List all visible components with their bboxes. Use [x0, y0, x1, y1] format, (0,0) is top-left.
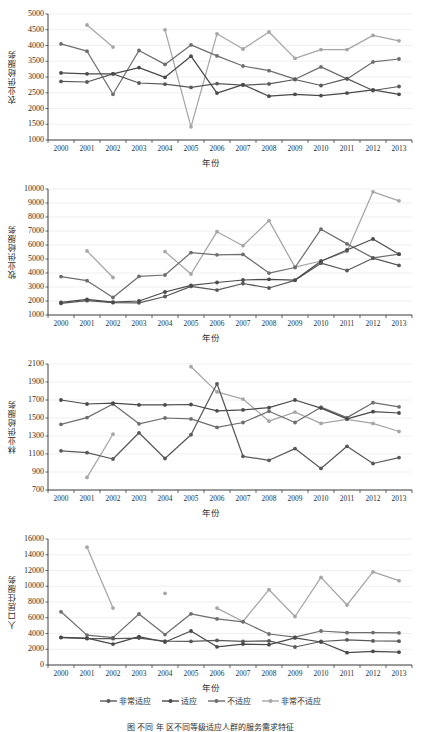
series-line	[59, 401, 401, 430]
x-tick-label: 2001	[80, 320, 95, 327]
x-tick-label: 2000	[54, 495, 69, 502]
x-tick-label: 2001	[80, 145, 95, 152]
x-tick-label: 2013	[392, 320, 407, 327]
x-tick-label: 2005	[184, 320, 199, 327]
x-tick-label: 2006	[210, 320, 225, 327]
x-tick-label: 2013	[392, 670, 407, 677]
x-tick-label: 2011	[340, 495, 355, 502]
figure-caption: 图 不同 年 区不同等级适应人群的服务需求特征	[0, 721, 421, 732]
series-line	[85, 23, 401, 129]
legend-item[interactable]: 不适应	[208, 695, 251, 706]
x-tick-label: 2000	[54, 145, 69, 152]
x-tick-label: 2002	[106, 670, 121, 677]
x-tick-label: 2007	[236, 495, 251, 502]
x-tick-label: 2008	[262, 145, 277, 152]
x-tick-label: 2006	[210, 670, 225, 677]
x-tick-label: 2012	[366, 670, 381, 677]
x-tick-label: 2005	[184, 495, 199, 502]
legend-label: 非常适应	[119, 695, 151, 706]
x-tick-label: 2009	[288, 495, 303, 502]
legend-item[interactable]: 适应	[162, 695, 197, 706]
x-tick-label: 2011	[340, 670, 355, 677]
x-tick-label: 2006	[210, 145, 225, 152]
series-line	[59, 398, 401, 421]
chart-panel-4: 人口居住服务0200040006000800010000120001400016…	[0, 527, 421, 723]
x-tick-label: 2005	[184, 145, 199, 152]
x-tick-label: 2010	[314, 495, 329, 502]
legend-label: 非常不适应	[281, 695, 321, 706]
chart-panel-3: 林业供给服务7009001100130015001700190021002000…	[0, 352, 421, 526]
x-tick-label: 2013	[392, 145, 407, 152]
x-tick-label: 2009	[288, 670, 303, 677]
legend-line-marker-icon	[208, 697, 225, 705]
x-tick-label: 2010	[314, 670, 329, 677]
legend-line-marker-icon	[162, 697, 179, 705]
x-tick-label: 2004	[158, 320, 173, 327]
x-tick-label: 2006	[210, 495, 225, 502]
x-tick-label: 2009	[288, 145, 303, 152]
x-tick-label: 2004	[158, 145, 173, 152]
x-tick-label: 2003	[132, 145, 147, 152]
x-tick-label: 2012	[366, 145, 381, 152]
x-axis-label: 年份	[0, 506, 421, 518]
x-tick-label: 2013	[392, 495, 407, 502]
x-tick-label: 2008	[262, 670, 277, 677]
x-tick-label: 2011	[340, 145, 355, 152]
legend-item[interactable]: 非常不适应	[262, 695, 321, 706]
x-tick-label: 2002	[106, 495, 121, 502]
x-tick-label: 2003	[132, 495, 147, 502]
x-tick-label: 2003	[132, 670, 147, 677]
x-tick-label: 2008	[262, 320, 277, 327]
x-tick-label: 2004	[158, 670, 173, 677]
x-tick-label: 2004	[158, 495, 173, 502]
chart-panel-2: 牧业供给服务1000200030004000500060007000800090…	[0, 177, 421, 351]
x-tick-label: 2012	[366, 320, 381, 327]
x-tick-label: 2003	[132, 320, 147, 327]
x-tick-label: 2012	[366, 495, 381, 502]
legend-item[interactable]: 非常适应	[100, 695, 151, 706]
series-line	[59, 42, 401, 96]
series-line	[59, 237, 401, 304]
legend-label: 适应	[181, 695, 197, 706]
x-tick-label: 2000	[54, 320, 69, 327]
x-tick-label: 2010	[314, 145, 329, 152]
x-tick-label: 2002	[106, 145, 121, 152]
chart-panel-1: 农业供给服务1000150020002500300035004000450050…	[0, 2, 421, 176]
x-tick-label: 2001	[80, 495, 95, 502]
x-tick-label: 2010	[314, 320, 329, 327]
plot-area	[0, 527, 421, 723]
legend-line-marker-icon	[262, 697, 279, 705]
x-tick-label: 2002	[106, 320, 121, 327]
x-tick-label: 2007	[236, 670, 251, 677]
x-axis-label: 年份	[0, 331, 421, 343]
x-tick-label: 2009	[288, 320, 303, 327]
x-tick-label: 2005	[184, 670, 199, 677]
chart-legend: 非常适应适应不适应非常不适应	[0, 695, 421, 706]
x-axis-label: 年份	[0, 681, 421, 693]
x-tick-label: 2011	[340, 320, 355, 327]
series-line	[85, 545, 401, 623]
x-tick-label: 2007	[236, 320, 251, 327]
x-tick-label: 2007	[236, 145, 251, 152]
x-tick-label: 2008	[262, 495, 277, 502]
legend-line-marker-icon	[100, 697, 117, 705]
x-tick-label: 2000	[54, 670, 69, 677]
x-axis-label: 年份	[0, 156, 421, 168]
legend-label: 不适应	[227, 695, 251, 706]
x-tick-label: 2001	[80, 670, 95, 677]
